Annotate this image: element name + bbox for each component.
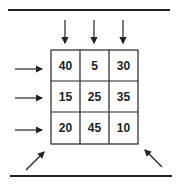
grid-cell: 5	[80, 50, 109, 81]
diagonal-arrows	[26, 150, 162, 170]
grid-cell: 40	[51, 50, 80, 81]
top-arrows	[65, 20, 123, 43]
grid-cell: 20	[51, 112, 80, 143]
grid-cell: 15	[51, 81, 80, 112]
grid-cell: 10	[109, 112, 138, 143]
grid-cell: 25	[80, 81, 109, 112]
up-right-arrow-icon	[26, 152, 44, 170]
grid-cell: 30	[109, 50, 138, 81]
left-arrows	[15, 69, 42, 130]
grid-cell: 35	[109, 81, 138, 112]
up-left-arrow-icon	[145, 150, 162, 167]
grid-cell: 45	[80, 112, 109, 143]
